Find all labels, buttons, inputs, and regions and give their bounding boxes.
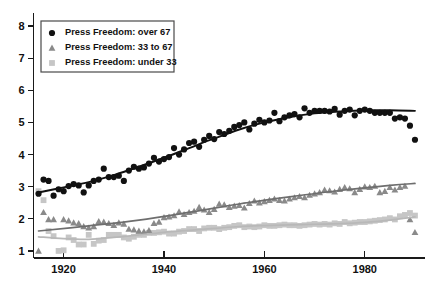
data-point bbox=[56, 248, 62, 254]
data-point bbox=[86, 232, 92, 238]
data-point bbox=[146, 227, 153, 233]
y-tick-label: 2 bbox=[18, 213, 24, 225]
data-point bbox=[75, 220, 82, 226]
data-point bbox=[407, 123, 413, 129]
x-tick-marks bbox=[64, 251, 365, 258]
chart-container: 12345678 1920194019601980 Press Freedom:… bbox=[0, 0, 435, 289]
data-point bbox=[91, 241, 97, 247]
y-tick-labels: 12345678 bbox=[18, 20, 25, 257]
data-point bbox=[45, 178, 51, 184]
data-point bbox=[81, 189, 87, 195]
legend-item: Press Freedom: 33 to 67 bbox=[49, 42, 173, 52]
y-tick-label: 6 bbox=[18, 84, 24, 96]
chart-legend: Press Freedom: over 67Press Freedom: 33 … bbox=[41, 21, 177, 72]
x-tick-labels: 1920194019601980 bbox=[51, 263, 377, 275]
scatter-plot: 12345678 1920194019601980 Press Freedom:… bbox=[0, 0, 435, 289]
y-tick-marks bbox=[28, 26, 34, 251]
y-tick-label: 7 bbox=[18, 52, 24, 64]
y-axis-group: 12345678 bbox=[18, 13, 33, 258]
data-point bbox=[171, 145, 177, 151]
legend-item-label: Press Freedom: over 67 bbox=[65, 27, 170, 37]
data-point bbox=[61, 188, 67, 194]
y-tick-label: 3 bbox=[18, 181, 24, 193]
data-point bbox=[49, 30, 55, 36]
data-point bbox=[412, 229, 419, 235]
data-point bbox=[271, 110, 277, 116]
data-point bbox=[402, 115, 408, 121]
data-point bbox=[191, 139, 197, 145]
data-point bbox=[60, 216, 67, 222]
data-point bbox=[352, 112, 358, 118]
data-point bbox=[65, 217, 72, 223]
x-tick-label: 1960 bbox=[252, 263, 276, 275]
data-point bbox=[402, 212, 408, 218]
data-point bbox=[95, 218, 102, 224]
data-point bbox=[101, 166, 107, 172]
data-point bbox=[412, 137, 418, 143]
series-markers-over-67 bbox=[35, 105, 418, 199]
series-markers-under-33 bbox=[36, 188, 418, 254]
data-point bbox=[407, 210, 413, 216]
data-point bbox=[241, 119, 247, 125]
y-tick-label: 8 bbox=[18, 20, 24, 32]
data-point bbox=[301, 105, 307, 111]
data-point bbox=[376, 189, 383, 195]
data-point bbox=[61, 247, 67, 253]
data-point bbox=[81, 242, 87, 248]
legend-item-label: Press Freedom: 33 to 67 bbox=[65, 42, 172, 52]
data-point bbox=[121, 178, 127, 184]
x-tick-label: 1940 bbox=[152, 263, 176, 275]
data-point bbox=[49, 60, 55, 66]
data-point bbox=[216, 201, 223, 207]
data-point bbox=[151, 220, 158, 226]
data-point bbox=[196, 204, 203, 210]
data-point bbox=[136, 228, 143, 234]
legend-item-label: Press Freedom: under 33 bbox=[65, 57, 177, 67]
y-tick-label: 4 bbox=[18, 149, 25, 161]
data-point bbox=[35, 248, 42, 254]
data-point bbox=[40, 209, 47, 215]
y-tick-label: 1 bbox=[18, 245, 24, 257]
x-axis-group: 1920194019601980 bbox=[34, 251, 426, 275]
data-point bbox=[130, 226, 137, 232]
trend-line bbox=[39, 110, 415, 192]
data-point bbox=[41, 197, 47, 203]
x-tick-label: 1980 bbox=[353, 263, 377, 275]
data-point bbox=[50, 193, 56, 199]
legend-item: Press Freedom: over 67 bbox=[49, 27, 171, 37]
data-point bbox=[50, 216, 57, 222]
legend-item: Press Freedom: under 33 bbox=[49, 57, 177, 67]
y-tick-label: 5 bbox=[18, 116, 24, 128]
x-tick-label: 1920 bbox=[51, 263, 75, 275]
data-point bbox=[76, 242, 82, 248]
